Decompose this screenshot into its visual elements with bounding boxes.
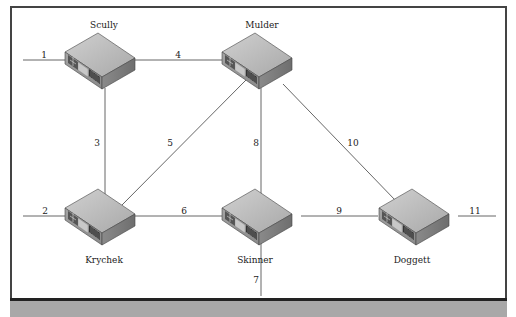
label-doggett: Doggett [394,255,431,265]
switch-skinner[interactable] [222,189,292,245]
switch-scully[interactable] [65,33,135,89]
switch-doggett[interactable] [379,189,449,245]
link-5 [122,80,246,205]
link-label-2: 2 [42,206,48,216]
link-label-5: 5 [167,138,173,148]
label-scully: Scully [90,20,119,30]
link-10 [283,84,396,201]
switch-mulder[interactable] [222,33,292,89]
link-label-6: 6 [181,206,187,216]
label-krychek: Krychek [85,255,123,265]
link-label-3: 3 [94,138,100,148]
link-label-7: 7 [253,275,259,285]
link-label-4: 4 [175,50,181,60]
link-label-10: 10 [347,138,359,148]
link-label-8: 8 [253,138,259,148]
link-label-11: 11 [469,206,480,216]
link-label-9: 9 [336,206,342,216]
network-diagram: Scully Mulder Krychek Skinner Doggett 1 … [0,0,516,317]
switch-krychek[interactable] [65,189,135,245]
link-label-1: 1 [41,50,47,60]
label-mulder: Mulder [245,20,279,30]
label-skinner: Skinner [237,255,273,265]
